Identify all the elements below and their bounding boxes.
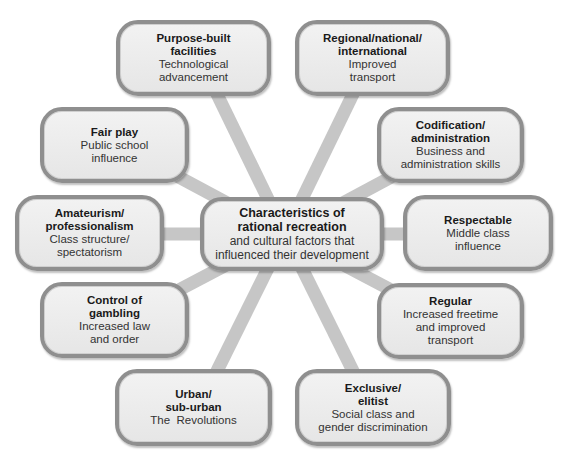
node-title: Control of [87,294,142,307]
node-title: Respectable [444,214,512,227]
central-title: rational recreation [237,220,346,234]
node-title: Regional/national/ [323,32,422,45]
node-title: gambling [89,307,140,320]
central-node: Characteristics of rational recreation a… [200,197,384,271]
node-subtitle: Increased freetime [403,308,498,321]
node-title: Amateurism/ [55,207,125,220]
node-title: Exclusive/ [345,382,401,395]
node-title: professionalism [45,220,133,233]
node-subtitle: transport [428,334,473,347]
node-control-gambling: Control of gambling Increased law and or… [40,282,189,358]
node-subtitle: Public school [81,139,149,152]
node-subtitle: The Revolutions [150,414,236,427]
node-subtitle: influence [91,152,137,165]
node-subtitle: spectatorism [57,246,122,259]
node-subtitle: Business and [416,145,485,158]
node-title: Codification/ [416,119,486,132]
node-subtitle: Middle class [446,227,509,240]
node-subtitle: and improved [416,321,486,334]
node-subtitle: and order [90,333,139,346]
central-subtitle: influenced their development [215,248,368,262]
node-subtitle: transport [350,71,395,84]
central-subtitle: and cultural factors that [230,234,355,248]
node-amateurism: Amateurism/ professionalism Class struct… [15,195,164,271]
node-exclusive: Exclusive/ elitist Social class and gend… [295,369,451,446]
node-title: administration [411,132,490,145]
node-codification: Codification/ administration Business an… [377,107,524,183]
node-title: elitist [358,395,388,408]
node-title: Fair play [91,126,138,139]
node-urban: Urban/ sub-urban The Revolutions [115,369,272,446]
node-title: sub-urban [165,401,221,414]
node-subtitle: gender discrimination [318,421,427,434]
node-subtitle: influence [455,240,501,253]
node-subtitle: advancement [159,71,228,84]
node-regional: Regional/national/ international Improve… [295,20,450,96]
node-subtitle: Technological [159,58,229,71]
node-title: international [338,45,407,58]
node-title: facilities [170,45,216,58]
node-purpose-built: Purpose-built facilities Technological a… [116,20,271,96]
node-fair-play: Fair play Public school influence [40,107,189,183]
node-subtitle: Class structure/ [50,233,130,246]
node-subtitle: administration skills [401,158,501,171]
node-subtitle: Increased law [79,320,150,333]
node-title: Purpose-built [156,32,230,45]
node-subtitle: Improved [349,58,397,71]
node-subtitle: Social class and [331,408,414,421]
node-title: Urban/ [175,388,211,401]
central-title: Characteristics of [239,206,345,220]
node-respectable: Respectable Middle class influence [403,195,553,271]
node-regular: Regular Increased freetime and improved … [377,283,524,359]
node-title: Regular [429,295,472,308]
